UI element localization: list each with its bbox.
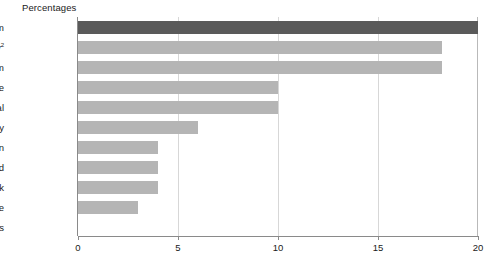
category-label: Greece [0,201,4,214]
tick-label: 5 [158,242,198,253]
tick-label: 10 [258,242,298,253]
category-label: Spain [0,141,4,154]
category-label: Ireland [0,161,4,174]
bar-row [78,121,478,134]
tick-mark [178,236,179,240]
tick-mark [478,236,479,240]
bar-row [78,101,478,114]
tick-label: 20 [458,242,485,253]
category-label: Belgium [0,61,4,74]
category-label: Denmark [0,181,4,194]
category-label: Netherlands [0,221,4,234]
bar [78,81,278,94]
bar-row [78,141,478,154]
bar [78,61,442,74]
bar [78,41,442,54]
tick-label: 0 [58,242,98,253]
plot-area [78,17,478,236]
bar-row [78,221,478,234]
category-label: Portugal [0,101,4,114]
bar-row [78,181,478,194]
bar-row [78,61,478,74]
bar-row [78,161,478,174]
tick-label: 15 [358,242,398,253]
tick-mark [278,236,279,240]
bar-row [78,21,478,34]
bar-row [78,41,478,54]
bar-row [78,81,478,94]
bar-chart: Percentages United KingdomGermany2Belgiu… [0,0,485,273]
category-label: Italy [0,121,4,134]
footnote-marker: 2 [1,42,4,48]
bar [78,161,158,174]
tick-mark [378,236,379,240]
bar [78,181,158,194]
category-label: United Kingdom [0,21,4,34]
bar [78,101,278,114]
tick-mark [78,236,79,240]
bar [78,21,478,34]
bar [78,121,198,134]
bar [78,201,138,214]
category-label: France [0,81,4,94]
bar [78,141,158,154]
chart-title: Percentages [22,2,76,13]
bar-row [78,201,478,214]
category-label: Germany2 [0,41,4,54]
